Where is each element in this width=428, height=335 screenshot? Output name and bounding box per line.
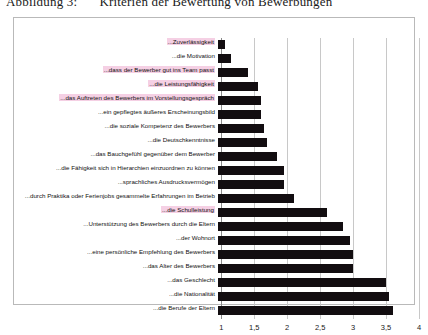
- bar-label: ...die Fähigkeit sich in Hierarchien ein…: [56, 164, 215, 171]
- bar-row: ...durch Praktika oder Ferienjobs gesamm…: [218, 193, 419, 205]
- figure-caption-text: Kriterien der Bewertung von Bewerbungen: [99, 0, 332, 9]
- bar-rows: ...Zuverlässigkeit...die Motivation...da…: [218, 38, 419, 319]
- bar: [218, 124, 264, 133]
- x-axis: 11,522,533,54: [218, 321, 419, 335]
- figure-number: Abbildung 3:: [6, 0, 77, 9]
- bar: [218, 264, 353, 273]
- x-tick-label: 2: [285, 323, 289, 332]
- bar-chart-plot-area: ...Zuverlässigkeit...die Motivation...da…: [218, 38, 419, 319]
- bar-row: ...die Leistungsfähigkeit: [218, 81, 419, 93]
- bar-row: ...eine persönliche Empfehlung des Bewer…: [218, 249, 419, 261]
- bar: [218, 292, 389, 301]
- bar-row: ...die soziale Kompetenz des Bewerbers: [218, 123, 419, 135]
- bar-label: ...die Nationalität: [169, 290, 215, 297]
- x-tick-label: 4: [417, 323, 421, 332]
- bar-label: ...der Wohnort: [176, 234, 215, 241]
- bar: [218, 306, 393, 315]
- bar-row: ...die Deutschkenntnisse: [218, 137, 419, 149]
- bar: [218, 82, 258, 91]
- figure-caption: Abbildung 3:Kriterien der Bewertung von …: [6, 0, 426, 12]
- bar-row: ...das Bauchgefühl gegenüber dem Bewerbe…: [218, 151, 419, 163]
- bar: [218, 222, 343, 231]
- bar-label: ...das Bauchgefühl gegenüber dem Bewerbe…: [90, 150, 215, 157]
- x-tick-label: 3,5: [381, 323, 391, 332]
- chart-frame: ...Zuverlässigkeit...die Motivation...da…: [13, 17, 415, 305]
- x-tick-label: 2,5: [315, 323, 325, 332]
- bar: [218, 250, 353, 259]
- bar: [218, 54, 231, 63]
- bar: [218, 208, 327, 217]
- bar-row: ...die Schulleistung: [218, 207, 419, 219]
- bar-label: ...die Berufe der Eltern: [153, 304, 215, 311]
- bar-row: ...das Alter des Bewerbers: [218, 263, 419, 275]
- bar-row: ...der Wohnort: [218, 235, 419, 247]
- bar-row: ...das Auftreten des Bewerbers im Vorste…: [218, 95, 419, 107]
- bar: [218, 236, 350, 245]
- bar-row: ...ein gepflegtes äußeres Erscheinungsbi…: [218, 109, 419, 121]
- bar-row: ...die Berufe der Eltern: [218, 305, 419, 317]
- bar-row: ...die Fähigkeit sich in Hierarchien ein…: [218, 165, 419, 177]
- bar-label: ...die Motivation: [172, 52, 215, 59]
- bar: [218, 152, 277, 161]
- bar-label: ...die Schulleistung: [161, 206, 215, 213]
- bar-row: ...sprachliches Ausdrucksvermögen: [218, 179, 419, 191]
- bar-label: ...die Leistungsfähigkeit: [148, 80, 215, 87]
- bar-label: ...Unterstützung des Bewerbers durch die…: [83, 220, 215, 227]
- bar-row: ...die Nationalität: [218, 291, 419, 303]
- x-tick-label: 1,5: [249, 323, 259, 332]
- bar-label: ...Zuverlässigkeit: [167, 38, 215, 45]
- bar-label: ...dass der Bewerber gut ins Team passt: [103, 66, 215, 73]
- x-tick-label: 3: [351, 323, 355, 332]
- bar: [218, 40, 225, 49]
- bar-row: ...dass der Bewerber gut ins Team passt: [218, 67, 419, 79]
- bar: [218, 166, 284, 175]
- bar: [218, 194, 294, 203]
- bar-label: ...eine persönliche Empfehlung des Bewer…: [87, 248, 215, 255]
- bar-row: ...die Motivation: [218, 53, 419, 65]
- bar-label: ...das Alter des Bewerbers: [143, 262, 215, 269]
- bar: [218, 68, 248, 77]
- bar: [218, 180, 284, 189]
- bar-row: ...das Geschlecht: [218, 277, 419, 289]
- bar-row: ...Unterstützung des Bewerbers durch die…: [218, 221, 419, 233]
- x-tick-label: 1: [219, 323, 223, 332]
- bar: [218, 110, 261, 119]
- bar: [218, 138, 267, 147]
- bar: [218, 278, 386, 287]
- gridline-4: [419, 38, 420, 319]
- bar-label: ...die soziale Kompetenz des Bewerbers: [105, 122, 215, 129]
- bar-label: ...die Deutschkenntnisse: [148, 136, 215, 143]
- bar-row: ...Zuverlässigkeit: [218, 39, 419, 51]
- bar-label: ...das Auftreten des Bewerbers im Vorste…: [59, 94, 215, 101]
- bar-label: ...durch Praktika oder Ferienjobs gesamm…: [25, 192, 215, 199]
- bar-label: ...sprachliches Ausdrucksvermögen: [118, 178, 215, 185]
- bar-label: ...ein gepflegtes äußeres Erscheinungsbi…: [98, 108, 215, 115]
- bar-label: ...das Geschlecht: [167, 276, 215, 283]
- bar: [218, 96, 261, 105]
